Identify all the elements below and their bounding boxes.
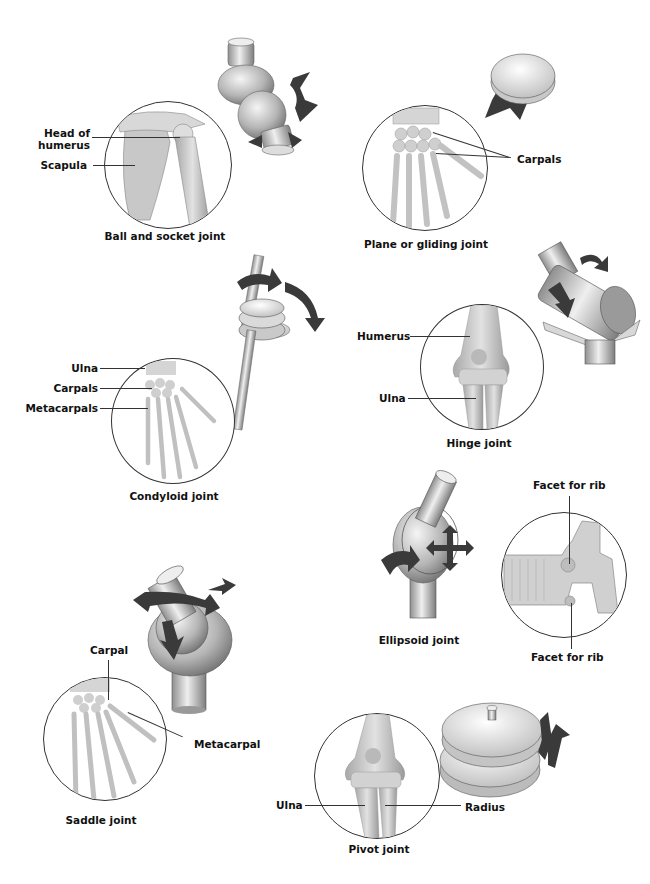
condyloid-circle (111, 358, 235, 484)
label-carpals-condyloid: Carpals (30, 382, 98, 394)
caption-condyloid: Condyloid joint (129, 490, 218, 502)
leader-carpal (108, 660, 109, 700)
caption-ellipsoid: Ellipsoid joint (379, 634, 460, 646)
leader-head-of-humerus (92, 137, 180, 138)
condyloid-model (233, 255, 325, 430)
saddle-model (133, 562, 236, 714)
ellipsoid-model (381, 468, 474, 618)
caption-saddle: Saddle joint (66, 814, 137, 826)
leader-scapula (93, 165, 135, 166)
plane-model (485, 54, 555, 120)
leader-carpals-condyloid (100, 388, 152, 389)
wrist-illustration (363, 106, 487, 230)
caption-ball-and-socket: Ball and socket joint (105, 230, 226, 242)
forearm-illustration (315, 714, 439, 838)
label-carpals-plane: Carpals (517, 153, 561, 165)
label-ulna-hinge: Ulna (379, 392, 406, 404)
thumb-illustration (44, 678, 166, 800)
leader-facet-bottom (571, 603, 572, 649)
vertebra-illustration (502, 513, 626, 637)
caption-hinge: Hinge joint (446, 437, 511, 449)
label-carpal: Carpal (90, 644, 128, 656)
caption-plane-gliding: Plane or gliding joint (364, 238, 488, 250)
pivot-circle (314, 713, 440, 839)
label-head-of-line1: Head of (30, 127, 90, 139)
label-ulna-pivot: Ulna (276, 799, 303, 811)
hand-illustration (112, 359, 234, 483)
label-facet-for-rib-bottom: Facet for rib (531, 651, 604, 663)
vertebra-circle (501, 512, 627, 638)
leader-facet-top (569, 496, 570, 564)
label-ulna-condyloid: Ulna (30, 362, 98, 374)
saddle-circle (43, 677, 167, 801)
elbow-illustration (421, 305, 543, 429)
label-humerus-line2: humerus (30, 139, 90, 151)
label-facet-for-rib-top: Facet for rib (533, 479, 606, 491)
caption-pivot: Pivot joint (349, 843, 410, 855)
label-humerus-hinge: Humerus (357, 330, 410, 342)
pivot-model (440, 703, 570, 797)
label-head-of-humerus: Head of humerus (30, 127, 90, 151)
label-scapula: Scapula (30, 159, 87, 171)
hinge-model (536, 242, 641, 364)
leader-ulna-pivot (305, 805, 365, 806)
leader-ulna-condyloid (100, 368, 145, 369)
plane-circle (362, 105, 488, 231)
hinge-circle (420, 304, 544, 430)
leader-metacarpals (100, 408, 148, 409)
label-metacarpal: Metacarpal (194, 738, 260, 750)
label-radius: Radius (465, 801, 505, 813)
label-metacarpals: Metacarpals (20, 402, 98, 414)
leader-radius (385, 805, 461, 806)
ball-socket-model (218, 38, 318, 155)
leader-humerus-hinge (410, 336, 470, 337)
leader-ulna-hinge (408, 398, 476, 399)
